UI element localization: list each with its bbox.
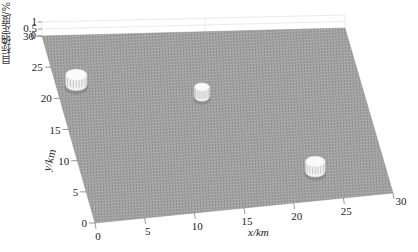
target-peak-1 [64,69,88,94]
x-tick-0: 0 [95,230,101,242]
surface-plane [42,28,393,223]
target-peak-2 [193,83,211,105]
target-peak-3 [304,156,327,180]
x-tick-25: 25 [341,205,353,217]
x-tick-20: 20 [291,210,303,222]
surface-plot: 051015202530 051015202530 0 0.5 1 x/km y… [0,0,418,252]
x-tick-30: 30 [396,195,408,207]
y-tick-20: 20 [41,92,53,104]
z-axis-label: 目标确定度/% [1,2,15,65]
y-axis-label: y/km [40,147,58,172]
x-tick-5: 5 [145,225,151,237]
x-axis-label: x/km [247,226,269,238]
x-tick-10: 10 [192,220,204,232]
y-tick-5: 5 [73,186,79,198]
y-tick-0: 0 [82,217,88,229]
y-tick-15: 15 [50,124,62,136]
y-tick-25: 25 [32,61,44,73]
y-tick-10: 10 [58,155,70,167]
z-tick-1: 1 [32,15,38,27]
